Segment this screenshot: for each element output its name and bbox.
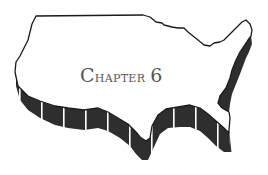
chapter-heading-rest: hapter	[95, 68, 145, 86]
us-map-illustration	[0, 0, 268, 175]
chapter-number: 6	[150, 64, 162, 86]
chapter-heading-initial: C	[80, 64, 95, 86]
chapter-heading: Chapter 6	[80, 65, 220, 87]
